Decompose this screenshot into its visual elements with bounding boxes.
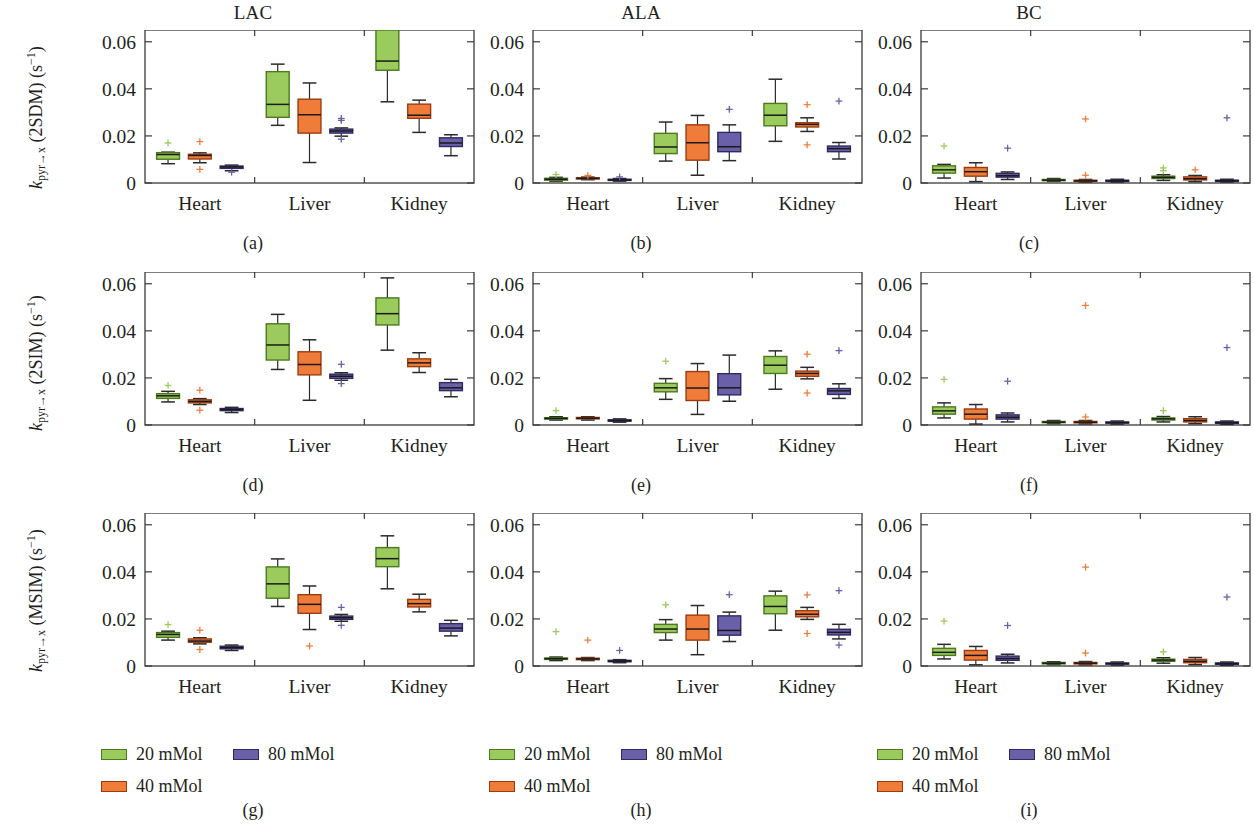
boxplot-d-heart-0 bbox=[157, 382, 180, 402]
boxplot-e-heart-1 bbox=[576, 417, 599, 420]
box bbox=[654, 133, 677, 153]
y-tick-label: 0.06 bbox=[102, 32, 136, 53]
x-category-label: Liver bbox=[288, 193, 331, 214]
boxplot-d-heart-1 bbox=[188, 387, 211, 414]
outlier-marker bbox=[726, 106, 733, 113]
legend-entry-1-1: 40 mMol bbox=[489, 777, 591, 795]
boxplot-c-heart-2 bbox=[996, 145, 1019, 180]
y-tick-label: 0.06 bbox=[490, 515, 524, 536]
legend-label: 40 mMol bbox=[136, 777, 203, 795]
box bbox=[718, 132, 741, 151]
boxplot-h-kidney-1 bbox=[796, 592, 819, 637]
panel-b: 00.020.040.06HeartLiverKidney bbox=[477, 30, 866, 223]
legend-label: 20 mMol bbox=[524, 745, 591, 763]
box bbox=[376, 298, 399, 325]
legend-label: 40 mMol bbox=[524, 777, 591, 795]
boxplot-f-kidney-0 bbox=[1152, 407, 1175, 422]
boxplot-d-kidney-1 bbox=[408, 353, 431, 373]
outlier-marker bbox=[1004, 622, 1011, 629]
boxplot-e-liver-2 bbox=[718, 355, 741, 401]
boxplot-d-kidney-2 bbox=[440, 379, 463, 396]
outlier-marker bbox=[1082, 302, 1089, 309]
boxplot-g-liver-1 bbox=[298, 586, 321, 649]
boxplot-b-heart-2 bbox=[608, 173, 631, 181]
panel-d: 00.020.040.06HeartLiverKidney bbox=[89, 272, 478, 465]
legend-entry-1-0: 20 mMol bbox=[489, 745, 591, 763]
column-title-0: LAC bbox=[173, 2, 333, 24]
box bbox=[408, 104, 431, 118]
boxplot-h-heart-1 bbox=[576, 637, 599, 661]
boxplot-c-liver-1 bbox=[1074, 116, 1097, 182]
y-label-unit: (s−1) bbox=[26, 46, 46, 78]
y-tick-label: 0.06 bbox=[878, 32, 912, 53]
boxplot-i-liver-1 bbox=[1074, 564, 1097, 665]
boxplot-i-kidney-0 bbox=[1152, 648, 1175, 663]
legend-swatch-icon bbox=[489, 749, 515, 760]
boxplot-i-heart-2 bbox=[996, 622, 1019, 663]
boxplot-a-kidney-0 bbox=[376, 30, 399, 102]
x-category-label: Liver bbox=[676, 193, 719, 214]
boxplot-e-heart-2 bbox=[608, 419, 631, 422]
legend-label: 20 mMol bbox=[912, 745, 979, 763]
y-tick-label: 0 bbox=[902, 173, 912, 194]
plot-frame bbox=[921, 513, 1250, 666]
boxplot-h-kidney-2 bbox=[828, 587, 851, 648]
boxplot-h-liver-2 bbox=[718, 591, 741, 641]
y-label-model: (MSIM) bbox=[26, 565, 46, 625]
plot-frame bbox=[921, 272, 1250, 425]
y-label-subscript: pyr→x bbox=[34, 389, 48, 423]
subplot-label-a: (a) bbox=[193, 233, 313, 254]
y-tick-label: 0.04 bbox=[490, 562, 524, 583]
outlier-marker bbox=[196, 138, 203, 145]
outlier-marker bbox=[1004, 378, 1011, 385]
y-tick-label: 0.02 bbox=[102, 368, 136, 389]
outlier-marker bbox=[1082, 172, 1089, 179]
y-tick-label: 0.02 bbox=[878, 368, 912, 389]
outlier-marker bbox=[1160, 407, 1167, 414]
y-tick-label: 0.02 bbox=[490, 368, 524, 389]
column-title-1: ALA bbox=[561, 2, 721, 24]
outlier-marker bbox=[1082, 564, 1089, 571]
y-tick-label: 0.04 bbox=[878, 562, 912, 583]
boxplot-b-liver-2 bbox=[718, 106, 741, 161]
boxplot-a-heart-2 bbox=[220, 165, 243, 175]
legend-entry-2-0: 20 mMol bbox=[877, 745, 979, 763]
panel-i: 00.020.040.06HeartLiverKidney bbox=[865, 513, 1254, 706]
boxplot-c-kidney-2 bbox=[1216, 114, 1239, 182]
outlier-marker bbox=[1224, 594, 1231, 601]
outlier-marker bbox=[941, 376, 948, 383]
x-category-label: Kidney bbox=[778, 435, 836, 456]
boxplot-d-liver-1 bbox=[298, 340, 321, 400]
y-axis-label-row-3: kpyr→x (MSIM) (s−1) bbox=[24, 529, 49, 672]
y-tick-label: 0.06 bbox=[102, 515, 136, 536]
boxplot-b-liver-0 bbox=[654, 122, 677, 161]
boxplot-i-kidney-2 bbox=[1216, 594, 1239, 666]
y-label-symbol: k bbox=[26, 664, 46, 672]
boxplot-f-kidney-2 bbox=[1216, 344, 1239, 424]
y-tick-label: 0.04 bbox=[878, 321, 912, 342]
y-tick-label: 0.02 bbox=[102, 609, 136, 630]
boxplot-h-heart-0 bbox=[545, 628, 568, 660]
box bbox=[298, 99, 321, 133]
outlier-marker bbox=[616, 647, 623, 654]
legend-entry-0-1: 40 mMol bbox=[101, 777, 203, 795]
boxplot-i-heart-0 bbox=[933, 618, 956, 659]
boxplot-c-kidney-1 bbox=[1184, 166, 1207, 181]
y-label-unit: (s−1) bbox=[26, 529, 46, 561]
outlier-marker bbox=[662, 358, 669, 365]
legend-swatch-icon bbox=[101, 781, 127, 792]
x-category-label: Liver bbox=[288, 435, 331, 456]
boxplot-h-heart-2 bbox=[608, 647, 631, 663]
outlier-marker bbox=[306, 643, 313, 650]
y-label-symbol: k bbox=[26, 423, 46, 431]
x-category-label: Kidney bbox=[778, 193, 836, 214]
outlier-marker bbox=[338, 622, 345, 629]
x-category-label: Kidney bbox=[1166, 676, 1224, 697]
legend-entry-2-2: 80 mMol bbox=[1009, 745, 1111, 763]
box bbox=[376, 30, 399, 70]
boxplot-i-liver-0 bbox=[1042, 662, 1065, 665]
panel-e: 00.020.040.06HeartLiverKidney bbox=[477, 272, 866, 465]
outlier-marker bbox=[196, 387, 203, 394]
outlier-marker bbox=[165, 140, 172, 147]
boxplot-c-heart-1 bbox=[964, 163, 987, 182]
